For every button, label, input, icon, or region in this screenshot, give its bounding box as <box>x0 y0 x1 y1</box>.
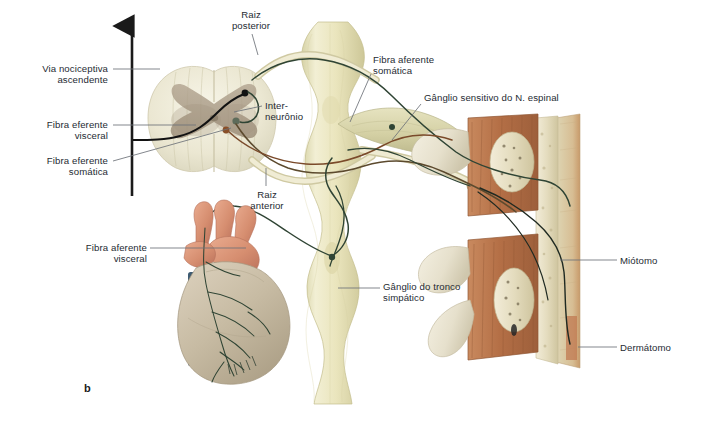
label-miotomo: Miótomo <box>620 255 690 266</box>
label-via-nociceptiva-ascendente: Via nociceptiva ascendente <box>16 63 108 86</box>
label-fibra-aferente-visceral: Fibra aferente visceral <box>55 242 147 265</box>
label-fibra-aferente-somatica: Fibra aferente somática <box>373 54 459 77</box>
leader-raiz-posterior <box>252 34 258 55</box>
label-raiz-posterior: Raiz posterior <box>216 9 286 32</box>
label-raiz-anterior: Raiz anterior <box>239 189 295 212</box>
vertebral-muscle-skin-block <box>412 114 580 368</box>
heart-illustration <box>178 200 290 384</box>
spinal-cord-cross-section <box>148 66 276 172</box>
label-ganglio-tronco-simpatico: Gânglio do tronco simpático <box>383 281 495 304</box>
sympathetic-trunk <box>302 22 365 404</box>
label-ganglio-sensitivo-n-espinal: Gânglio sensitivo do N. espinal <box>424 92 604 103</box>
figure-canvas: Via nociceptiva ascendente Fibra eferent… <box>0 0 703 428</box>
label-dermatomo: Dermátomo <box>620 342 700 353</box>
panel-letter: b <box>84 382 91 394</box>
label-interneuronio: Inter- neurônio <box>265 100 325 123</box>
label-fibra-eferente-somatica: Fibra eferente somática <box>16 155 108 178</box>
label-fibra-eferente-visceral: Fibra eferente visceral <box>16 119 108 142</box>
